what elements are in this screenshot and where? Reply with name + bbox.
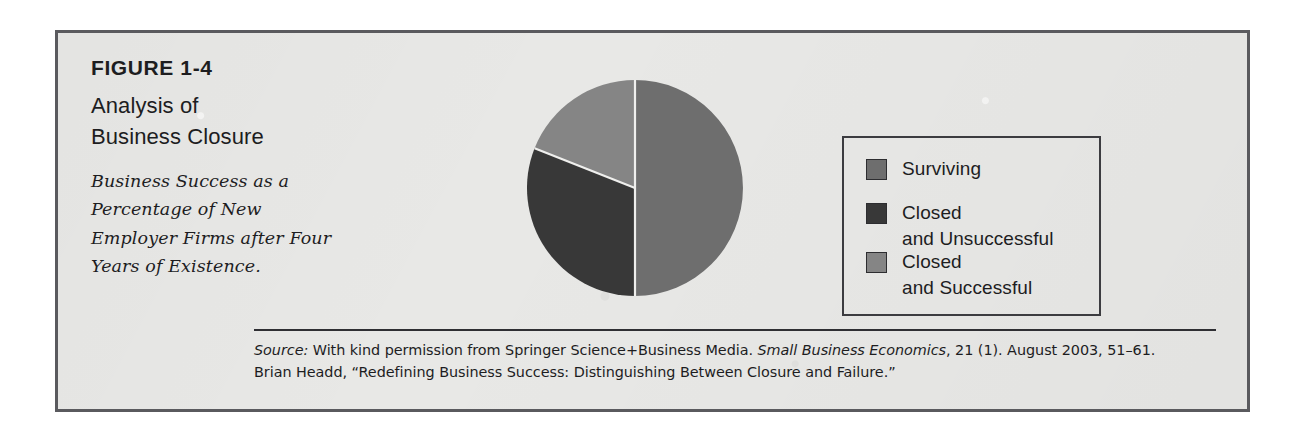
legend-swatch-closed-successful — [866, 252, 887, 273]
legend-swatch-surviving — [866, 159, 887, 180]
source-citation: Source: With kind permission from Spring… — [254, 340, 1244, 384]
source-line2: Brian Headd, “Redefining Business Succes… — [254, 364, 896, 380]
legend-swatch-closed-unsuccessful — [866, 203, 887, 224]
legend-label-closed-successful: Closed and Successful — [902, 249, 1032, 301]
figure-subtitle: Business Success as a Percentage of New … — [91, 167, 341, 281]
source-label: Source: — [254, 342, 308, 358]
source-journal-title: Small Business Economics — [758, 342, 947, 358]
source-divider-rule — [254, 329, 1216, 331]
figure-root: FIGURE 1-4 Analysis of Business Closure … — [0, 0, 1304, 439]
legend-label-closed-unsuccessful: Closed and Unsuccessful — [902, 200, 1054, 252]
pie-chart-svg — [525, 78, 745, 298]
figure-title: Analysis of Business Closure — [91, 90, 341, 152]
legend-item-closed-unsuccessful[interactable]: Closed and Unsuccessful — [866, 200, 1054, 252]
source-line1-part2: , 21 (1). August 2003, 51–61. — [946, 342, 1155, 358]
figure-caption-block: FIGURE 1-4 Analysis of Business Closure … — [91, 55, 341, 281]
legend: Surviving Closed and Unsuccessful Closed… — [842, 136, 1101, 316]
legend-item-surviving[interactable]: Surviving — [866, 156, 981, 182]
pie-slice-surviving — [635, 80, 743, 296]
figure-number: FIGURE 1-4 — [91, 55, 341, 81]
legend-label-surviving: Surviving — [902, 156, 981, 182]
source-line1-part1: With kind permission from Springer Scien… — [308, 342, 757, 358]
figure-frame: FIGURE 1-4 Analysis of Business Closure … — [55, 30, 1250, 412]
pie-chart — [525, 78, 745, 298]
legend-item-closed-successful[interactable]: Closed and Successful — [866, 249, 1032, 301]
